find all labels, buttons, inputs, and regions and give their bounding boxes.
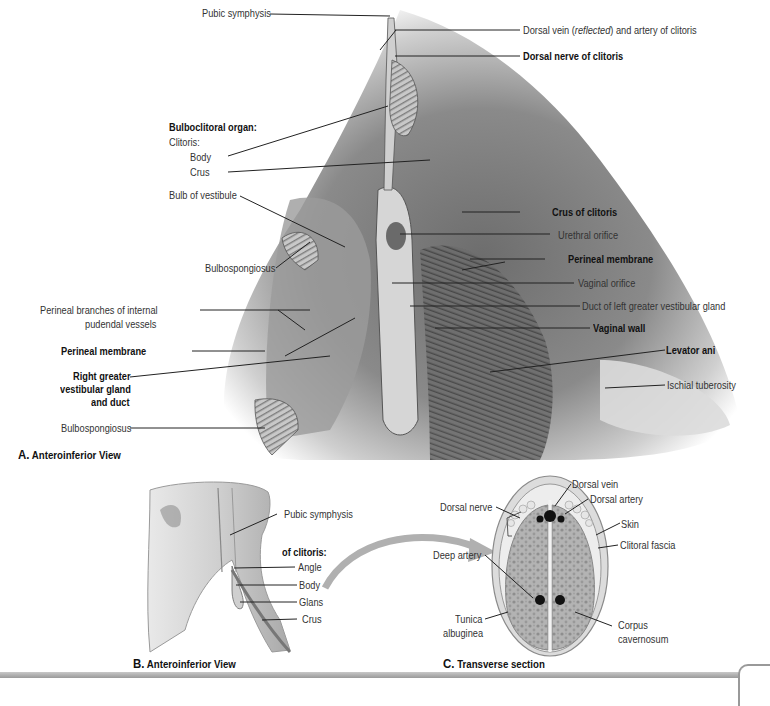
caption-text: Transverse section (457, 658, 545, 670)
label-clitoris: Clitoris: (169, 136, 200, 148)
label-perineal-branches: Perineal branches of internal (40, 304, 158, 316)
label-right-greater-gland-2: vestibular gland (60, 383, 131, 395)
label-ischial-tuberosity: Ischial tuberosity (667, 379, 736, 391)
caption-letter: B. (133, 656, 144, 671)
label-c-tunica: Tunica (455, 613, 482, 625)
caption-letter: C. (443, 656, 454, 671)
label-c-corpus: Corpus (618, 619, 648, 631)
label-b-of-clitoris: of clitoris: (282, 546, 327, 558)
label-bulbospongiosus-lower: Bulbospongiosus (61, 422, 131, 434)
label-c-cavernosum: cavernosum (618, 633, 668, 645)
figure-a-artwork (224, 10, 740, 460)
label-text: Dorsal vein ( (523, 24, 575, 36)
label-right-greater-gland-3: and duct (91, 396, 130, 408)
label-b-pubic-symphysis: Pubic symphysis (284, 508, 353, 520)
label-right-greater-gland-1: Right greater (73, 370, 131, 382)
label-bulbospongiosus-upper: Bulbospongiosus (205, 262, 275, 274)
label-body: Body (190, 151, 211, 163)
caption-text: Anteroinferior View (32, 449, 121, 461)
label-b-body: Body (299, 579, 320, 591)
label-pubic-symphysis: Pubic symphysis (202, 7, 271, 19)
label-vaginal-wall: Vaginal wall (593, 322, 645, 334)
label-c-dorsal-vein: Dorsal vein (572, 478, 618, 490)
label-italic: reflected (575, 24, 610, 36)
label-levator-ani: Levator ani (666, 344, 715, 356)
label-b-crus: Crus (302, 613, 322, 625)
page-corner-tab (738, 664, 770, 706)
page-bottom-rule (0, 672, 740, 678)
label-duct-left-gland: Duct of left greater vestibular gland (582, 300, 725, 312)
caption-figure-b: B. Anteroinferior View (133, 656, 236, 671)
label-crus: Crus (190, 166, 210, 178)
label-c-deep-artery: Deep artery (433, 549, 481, 561)
caption-figure-c: C. Transverse section (443, 656, 545, 671)
connector-arrow (325, 537, 478, 588)
label-c-albuginea: albuginea (443, 627, 483, 639)
label-c-dorsal-artery: Dorsal artery (590, 493, 643, 505)
label-vaginal-orifice: Vaginal orifice (578, 277, 635, 289)
label-c-skin: Skin (621, 518, 639, 530)
label-crus-of-clitoris: Crus of clitoris (552, 206, 617, 218)
label-pudendal-vessels: pudendal vessels (85, 318, 156, 330)
label-c-dorsal-nerve: Dorsal nerve (440, 501, 492, 513)
label-bulboclitoral-organ: Bulboclitoral organ: (169, 121, 257, 133)
caption-letter: A. (18, 447, 29, 462)
label-b-angle: Angle (298, 561, 322, 573)
label-perineal-membrane-left: Perineal membrane (61, 345, 146, 357)
label-urethral-orifice: Urethral orifice (558, 229, 618, 241)
caption-text: Anteroinferior View (147, 658, 236, 670)
label-dorsal-nerve-of-clitoris: Dorsal nerve of clitoris (523, 50, 623, 62)
label-dorsal-vein-artery: Dorsal vein (reflected) and artery of cl… (523, 24, 697, 36)
label-c-clitoral-fascia: Clitoral fascia (620, 539, 675, 551)
label-perineal-membrane-right: Perineal membrane (568, 253, 653, 265)
label-b-glans: Glans (299, 596, 323, 608)
caption-figure-a: A. Anteroinferior View (18, 447, 121, 462)
label-text: ) and artery of clitoris (610, 24, 696, 36)
label-bulb-of-vestibule: Bulb of vestibule (169, 189, 237, 201)
